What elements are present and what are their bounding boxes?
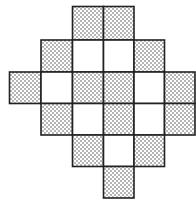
white-cell bbox=[134, 72, 165, 104]
shaded-cell bbox=[41, 40, 73, 72]
white-cell bbox=[104, 40, 135, 72]
shaded-cell bbox=[104, 167, 135, 199]
shaded-cell bbox=[73, 135, 104, 167]
shaded-cell bbox=[104, 7, 135, 41]
grid-board bbox=[0, 0, 196, 203]
shaded-cell bbox=[165, 104, 196, 136]
cells-group bbox=[10, 7, 196, 199]
shaded-cell bbox=[104, 104, 135, 136]
white-cell bbox=[73, 104, 104, 136]
shaded-cell bbox=[73, 72, 104, 104]
shaded-cell bbox=[73, 7, 104, 41]
shaded-cell bbox=[10, 72, 42, 104]
shaded-cell bbox=[41, 104, 73, 136]
shaded-cell bbox=[134, 40, 165, 72]
white-cell bbox=[104, 135, 135, 167]
shaded-cell bbox=[134, 135, 165, 167]
white-cell bbox=[134, 104, 165, 136]
white-cell bbox=[41, 72, 73, 104]
shaded-cell bbox=[104, 72, 135, 104]
white-cell bbox=[73, 40, 104, 72]
shaded-cell bbox=[165, 72, 196, 104]
